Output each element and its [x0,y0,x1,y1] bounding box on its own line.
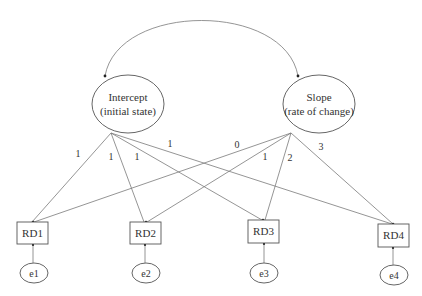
path-slope-rd4 [291,133,393,224]
arrowhead-e2 [144,244,146,246]
loading-intercept-rd2: 1 [109,151,114,162]
slope-label: Slope [306,91,331,103]
arrowhead-e3 [263,243,265,245]
covariance-arc [105,21,298,77]
observed-rd1: RD1 [17,222,48,244]
rd4-label: RD4 [383,229,404,241]
arrowhead-e1 [32,244,34,246]
observed-rd3: RD3 [248,220,279,243]
e3-label: e3 [259,268,268,279]
rd1-label: RD1 [22,227,43,239]
e2-label: e2 [141,268,150,279]
error-e3: e3 [250,263,278,283]
arc-arrowhead-slope [297,75,300,78]
loading-slope-rd3: 2 [288,152,293,163]
path-intercept-rd2 [111,133,144,222]
arc-arrowhead-intercept [104,75,107,78]
path-slope-rd3 [265,133,291,220]
error-e2: e2 [132,263,160,283]
intercept-sublabel: (initial state) [100,105,156,118]
latent-intercept: Intercept (initial state) [92,75,164,133]
slope-sublabel: (rate of change) [284,105,354,118]
loading-intercept-rd1: 1 [76,148,81,159]
observed-rd4: RD4 [378,224,409,247]
e4-label: e4 [389,270,398,281]
loading-intercept-rd3: 1 [135,151,140,162]
loading-intercept-rd4: 1 [168,138,173,149]
arrowhead-e4 [392,247,394,249]
loading-slope-rd2: 1 [263,151,268,162]
error-e4: e4 [380,265,408,285]
growth-model-diagram: Intercept (initial state) Slope (rate of… [0,0,422,296]
loading-slope-rd4: 3 [319,141,324,152]
path-slope-rd1 [34,133,291,222]
error-e1: e1 [20,263,48,283]
loading-slope-rd1: 0 [235,139,240,150]
e1-label: e1 [29,268,38,279]
rd2-label: RD2 [135,227,156,239]
intercept-label: Intercept [108,91,147,103]
observed-rd2: RD2 [130,222,161,244]
rd3-label: RD3 [253,225,274,237]
latent-slope: Slope (rate of change) [283,75,355,133]
